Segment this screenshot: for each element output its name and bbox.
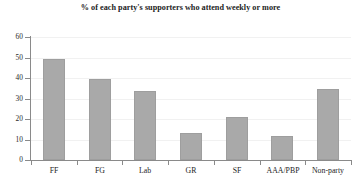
y-tick-label: 30 <box>3 95 23 102</box>
gridline <box>31 78 351 79</box>
y-tick-mark <box>25 160 30 161</box>
x-tick-mark <box>305 161 306 165</box>
y-tick-mark <box>25 37 30 38</box>
y-tick-label: 60 <box>3 33 23 40</box>
bar <box>271 136 293 160</box>
x-tick-label: AAA/PBP <box>260 167 306 176</box>
y-tick-mark <box>25 99 30 100</box>
x-tick-mark <box>77 161 78 165</box>
y-tick-label: 0 <box>3 156 23 163</box>
bar <box>226 117 248 160</box>
x-tick-mark <box>260 161 261 165</box>
y-tick-mark <box>25 58 30 59</box>
x-tick-mark <box>351 161 352 165</box>
x-axis-line <box>30 160 352 161</box>
bar-chart-figure: % of each party's supporters who attend … <box>0 0 361 189</box>
bar <box>180 133 202 160</box>
x-tick-label: FG <box>77 167 123 176</box>
bar <box>89 79 111 160</box>
y-tick-label: 10 <box>3 136 23 143</box>
y-tick-label: 40 <box>3 74 23 81</box>
y-tick-mark <box>25 140 30 141</box>
y-tick-mark <box>25 78 30 79</box>
x-tick-mark <box>31 161 32 165</box>
x-tick-mark <box>168 161 169 165</box>
y-tick-label: 20 <box>3 115 23 122</box>
gridline <box>31 99 351 100</box>
gridline <box>31 119 351 120</box>
x-tick-label: Lab <box>122 167 168 176</box>
y-tick-label: 50 <box>3 54 23 61</box>
x-tick-label: SF <box>214 167 260 176</box>
gridline <box>31 37 351 38</box>
chart-title: % of each party's supporters who attend … <box>0 3 361 12</box>
bar <box>134 91 156 160</box>
x-tick-mark <box>122 161 123 165</box>
x-tick-label: GR <box>168 167 214 176</box>
x-tick-label: FF <box>31 167 77 176</box>
y-tick-mark <box>25 119 30 120</box>
gridline <box>31 58 351 59</box>
bar <box>317 89 339 160</box>
bar <box>43 59 65 160</box>
x-tick-label: Non-party <box>305 167 351 176</box>
x-tick-mark <box>214 161 215 165</box>
